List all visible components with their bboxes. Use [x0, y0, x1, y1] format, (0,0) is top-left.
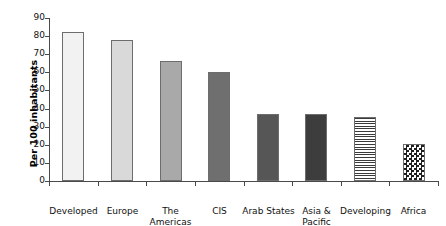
y-tick-mark [45, 36, 50, 37]
y-tick-mark [45, 145, 50, 146]
bar-chart: Per 100 inhabitants 0102030405060708090 … [0, 0, 446, 226]
y-tick-mark [45, 72, 50, 73]
x-axis-category-label-line: Americas [142, 217, 199, 226]
x-tick-mark [341, 181, 342, 186]
y-tick-label: 10 [34, 156, 45, 169]
bar [111, 40, 133, 181]
y-tick-label: 60 [34, 65, 45, 78]
y-axis-line [49, 18, 50, 182]
x-axis-category-label-line: Africa [385, 206, 442, 217]
bar [257, 114, 279, 181]
bar [160, 61, 182, 181]
x-tick-mark [49, 181, 50, 186]
x-tick-mark [292, 181, 293, 186]
x-tick-mark [389, 181, 390, 186]
x-tick-mark [195, 181, 196, 186]
x-axis-category-label: Africa [385, 206, 442, 217]
x-tick-mark [146, 181, 147, 186]
y-tick-label: 70 [34, 47, 45, 60]
x-tick-mark [98, 181, 99, 186]
x-axis-category-label-line: Pacific [288, 217, 345, 226]
y-tick-mark [45, 127, 50, 128]
bar [354, 117, 376, 181]
x-tick-mark [438, 181, 439, 186]
y-tick-label: 40 [34, 102, 45, 115]
y-tick-label: 20 [34, 138, 45, 151]
plot-area: 0102030405060708090 DevelopedEuropeTheAm… [49, 18, 438, 182]
bar [305, 114, 327, 181]
y-tick-label: 80 [34, 29, 45, 42]
y-tick-mark [45, 109, 50, 110]
x-tick-mark [244, 181, 245, 186]
y-tick-mark [45, 163, 50, 164]
y-tick-label: 0 [39, 174, 45, 187]
y-tick-mark [45, 90, 50, 91]
y-tick-label: 50 [34, 83, 45, 96]
bar [403, 144, 425, 181]
bar [62, 32, 84, 181]
y-tick-mark [45, 18, 50, 19]
y-tick-label: 30 [34, 120, 45, 133]
y-tick-mark [45, 54, 50, 55]
bar [208, 72, 230, 181]
y-tick-label: 90 [34, 11, 45, 24]
